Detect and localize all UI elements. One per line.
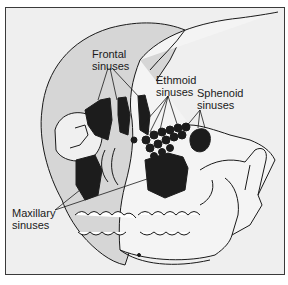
label-sphenoid-sinuses: Sphenoid sinuses bbox=[197, 87, 244, 111]
maxillary-sinus-lateral bbox=[145, 153, 188, 198]
skull-sinus-illustration bbox=[0, 0, 288, 285]
label-ethmoid-sinuses: Ethmoid sinuses bbox=[156, 74, 196, 98]
sphenoid-sinus bbox=[190, 129, 210, 152]
label-frontal-sinuses: Frontal sinuses bbox=[92, 48, 129, 72]
label-maxillary-sinuses: Maxillary sinuses bbox=[12, 207, 55, 231]
